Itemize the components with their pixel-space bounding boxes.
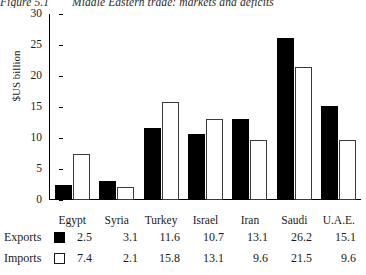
- bar-imports-saudi: [295, 67, 312, 200]
- bar-exports-egypt: [55, 185, 72, 201]
- y-axis-tick-label: 10: [31, 132, 43, 144]
- table-cell: 3.1: [104, 230, 138, 245]
- x-axis-label-egypt: Egypt: [58, 214, 85, 226]
- table-cell: 9.6: [322, 251, 356, 266]
- bar-imports-israel: [206, 119, 223, 200]
- y-axis-tick-label: 25: [31, 39, 43, 51]
- x-axis-label-turkey: Turkey: [145, 214, 178, 226]
- y-axis-tick-label: 15: [31, 101, 43, 113]
- bar-exports-turkey: [144, 128, 161, 200]
- figure-caption: Middle Eastern trade: markets and defici…: [72, 0, 274, 8]
- x-axis-label-israel: Israel: [193, 214, 219, 226]
- bar-imports-iran: [250, 140, 267, 200]
- table-cell: 10.7: [190, 230, 224, 245]
- plot-area: [50, 14, 361, 200]
- table-row-label: Imports: [4, 251, 41, 266]
- x-axis-label-saudi: Saudi: [281, 214, 307, 226]
- table-cell: 11.6: [146, 230, 180, 245]
- figure-title: Figure 5.1Middle Eastern trade: markets …: [0, 0, 366, 8]
- table-cell: 2.5: [58, 230, 92, 245]
- x-axis-label-iran: Iran: [241, 214, 260, 226]
- table-row-label: Exports: [4, 230, 41, 245]
- table-row: Imports7.42.115.813.19.621.59.6: [0, 249, 366, 270]
- bar-group: [94, 14, 138, 200]
- table-cell: 21.5: [278, 251, 312, 266]
- table-row: Exports2.53.111.610.713.126.215.1: [0, 228, 366, 249]
- y-axis-tick-label: 30: [31, 8, 43, 20]
- bar-imports-uae: [339, 140, 356, 200]
- y-axis-tick-label: 0: [36, 194, 42, 206]
- bar-imports-syria: [117, 187, 134, 200]
- bar-group: [228, 14, 272, 200]
- bar-chart: $US billion 051015202530 EgyptSyriaTurke…: [0, 8, 366, 208]
- bar-exports-syria: [99, 181, 116, 200]
- bar-group: [272, 14, 316, 200]
- bar-imports-egypt: [73, 154, 90, 200]
- bar-exports-uae: [321, 106, 338, 200]
- y-axis-tick-label: 5: [36, 163, 42, 175]
- table-cell: 26.2: [278, 230, 312, 245]
- x-axis-label-syria: Syria: [105, 214, 129, 226]
- table-cell: 13.1: [190, 251, 224, 266]
- y-axis-tick-labels: 051015202530: [14, 8, 42, 200]
- table-cell: 7.4: [58, 251, 92, 266]
- bar-group: [139, 14, 183, 200]
- table-cell: 13.1: [234, 230, 268, 245]
- bar-imports-turkey: [162, 102, 179, 200]
- table-cell: 2.1: [104, 251, 138, 266]
- table-cell: 9.6: [234, 251, 268, 266]
- bar-group: [317, 14, 361, 200]
- bar-group: [50, 14, 94, 200]
- table-cell: 15.1: [322, 230, 356, 245]
- data-table: Exports2.53.111.610.713.126.215.1Imports…: [0, 228, 366, 272]
- bar-exports-israel: [188, 134, 205, 200]
- x-axis-label-uae: U.A.E.: [323, 214, 355, 226]
- bar-exports-iran: [232, 119, 249, 200]
- bar-group: [183, 14, 227, 200]
- bar-exports-saudi: [277, 38, 294, 200]
- y-axis-tick-label: 20: [31, 70, 43, 82]
- table-cell: 15.8: [146, 251, 180, 266]
